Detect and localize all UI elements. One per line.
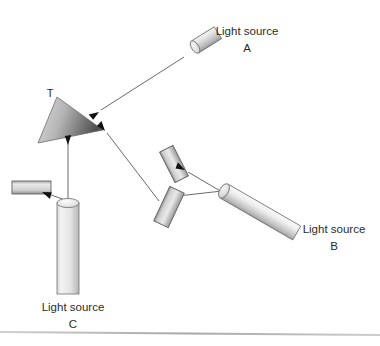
mirror-b-lower — [154, 186, 185, 227]
label-light-source-c-line2: C — [69, 318, 77, 330]
label-light-source-b-line2: B — [330, 240, 338, 252]
mirror-b-lower-surface — [154, 186, 185, 227]
beam-b-to-mirror-upper — [188, 172, 222, 192]
light-source-c-body — [57, 203, 79, 294]
optics-diagram: T Light source A Light source B Light — [0, 0, 380, 346]
label-light-source-a-line2: A — [243, 42, 251, 54]
source-labels: Light source A Light source B Light sour… — [42, 25, 366, 330]
label-light-source-c-line1: Light source — [42, 301, 105, 313]
arrowhead-into-target-from-a — [89, 109, 101, 120]
mirror-b-upper — [160, 145, 189, 182]
light-source-b-body — [220, 184, 301, 240]
light-source-b-cylinder — [216, 182, 301, 240]
mirror-c-left-surface — [12, 181, 51, 194]
light-source-c-cylinder — [57, 198, 79, 294]
arrowhead-into-target-from-c — [65, 135, 71, 145]
target-label-T: T — [47, 87, 54, 99]
beam-mirror-lower-to-target — [107, 133, 159, 201]
baseline-rule — [0, 331, 380, 336]
mirror-b-upper-surface — [160, 145, 189, 182]
beam-a-to-target — [101, 57, 184, 110]
light-source-c-endcap — [57, 198, 79, 207]
mirror-c-left — [12, 181, 51, 194]
label-light-source-b-line1: Light source — [303, 223, 366, 235]
label-light-source-a-line1: Light source — [216, 25, 279, 37]
